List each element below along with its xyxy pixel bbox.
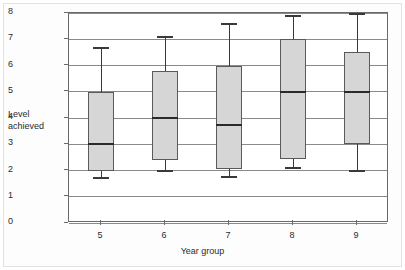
y-tick-label-0: 0 [0, 217, 13, 226]
boxplot-figure: Level achieved 012345678 56789 Year grou… [0, 0, 405, 270]
y-tick-label-6: 6 [0, 60, 13, 69]
y-tick-label-1: 1 [0, 191, 13, 200]
x-tick-mark-7 [228, 220, 229, 225]
whisker-cap-upper [349, 13, 365, 15]
x-tick-mark-6 [164, 220, 165, 225]
y-tick-label-4: 4 [0, 112, 13, 121]
plot-area [68, 12, 388, 222]
x-axis-title: Year group [0, 246, 405, 256]
box-iqr [344, 52, 370, 144]
y-tick-label-3: 3 [0, 138, 13, 147]
y-tick-label-8: 8 [0, 7, 13, 16]
median-line [344, 91, 370, 93]
y-axis-title-line-1: Level [8, 108, 64, 120]
whisker-cap-lower [349, 170, 365, 172]
x-tick-mark-5 [100, 220, 101, 225]
x-tick-mark-9 [356, 220, 357, 225]
y-tick-label-2: 2 [0, 165, 13, 174]
y-tick-label-5: 5 [0, 86, 13, 95]
x-tick-mark-8 [292, 220, 293, 225]
x-tick-label-7: 7 [213, 230, 243, 240]
y-tick-label-7: 7 [0, 33, 13, 42]
x-tick-label-6: 6 [149, 230, 179, 240]
x-tick-label-9: 9 [341, 230, 371, 240]
y-axis-title: Level achieved [8, 108, 64, 132]
x-tick-label-8: 8 [277, 230, 307, 240]
box-plot-year-9 [69, 13, 387, 221]
y-axis-title-line-2: achieved [8, 120, 64, 132]
x-tick-label-5: 5 [85, 230, 115, 240]
